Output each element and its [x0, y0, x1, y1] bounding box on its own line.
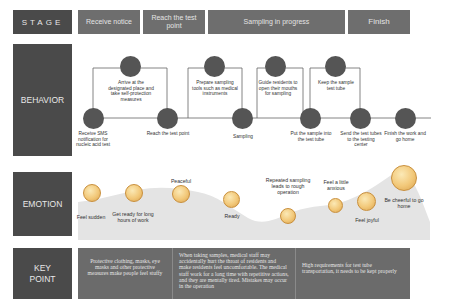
- emotion-label: Feel a little anxious: [320, 179, 352, 191]
- emotion-label: Get ready for long hours of work: [112, 211, 154, 223]
- behavior-label: Sampling: [222, 134, 264, 140]
- behavior-node-sampling[interactable]: [232, 108, 253, 129]
- behavior-node-keep-tube[interactable]: [325, 56, 346, 77]
- anxious-face-icon: [328, 198, 343, 213]
- key-point-finish: High requirements for test tube transpor…: [295, 248, 410, 299]
- behavior-label: Reach the test point: [145, 131, 191, 137]
- behavior-node-put-sample[interactable]: [300, 108, 321, 129]
- behavior-label: Receive SMS notification for nucleic aci…: [70, 131, 116, 148]
- big-grin-face-icon: [391, 165, 417, 191]
- behavior-label: Send the test tubes to the testing cente…: [340, 131, 382, 148]
- emotion-label: Be cheerful to go home: [384, 197, 424, 209]
- grinning-face-icon: [357, 192, 376, 211]
- behavior-node-guide-residents[interactable]: [265, 56, 286, 77]
- shocked-face-icon: [83, 184, 101, 202]
- emotion-label: Peaceful: [162, 178, 200, 184]
- behavior-label: Finish the work and go home: [384, 131, 426, 142]
- emotion-label: Repeated sampling leads to rough operati…: [264, 177, 312, 195]
- determined-face-icon: [125, 184, 143, 202]
- emotion-label: Ready: [215, 213, 249, 219]
- behavior-node-reach-test-point[interactable]: [157, 108, 178, 129]
- emotion-label: Feel sudden: [72, 214, 110, 220]
- emotion-label: Feel joyful: [350, 217, 384, 223]
- calm-face-icon: [172, 185, 190, 203]
- key-point-receive-notice: Protective clothing, masks, eye masks an…: [78, 248, 172, 299]
- behavior-node-arrive[interactable]: [120, 56, 141, 77]
- behavior-node-send-tubes[interactable]: [350, 108, 371, 129]
- behavior-label: Arrive at the designated place and take …: [108, 80, 154, 102]
- behavior-node-finish-work[interactable]: [395, 108, 416, 129]
- worried-face-icon: [280, 208, 296, 224]
- behavior-label: Prepare sampling tools such as medical i…: [191, 80, 239, 97]
- neutral-face-icon: [223, 191, 240, 208]
- behavior-node-prepare-tools[interactable]: [204, 56, 225, 77]
- behavior-node-receive-sms[interactable]: [83, 108, 104, 129]
- behavior-label: Guide residents to open their mouths for…: [256, 80, 300, 97]
- behavior-label: Put the sample into the test tube: [290, 131, 332, 142]
- behavior-label: Keep the sample test tube: [315, 80, 357, 91]
- key-point-sampling: When taking samples, medical staff may a…: [172, 248, 295, 299]
